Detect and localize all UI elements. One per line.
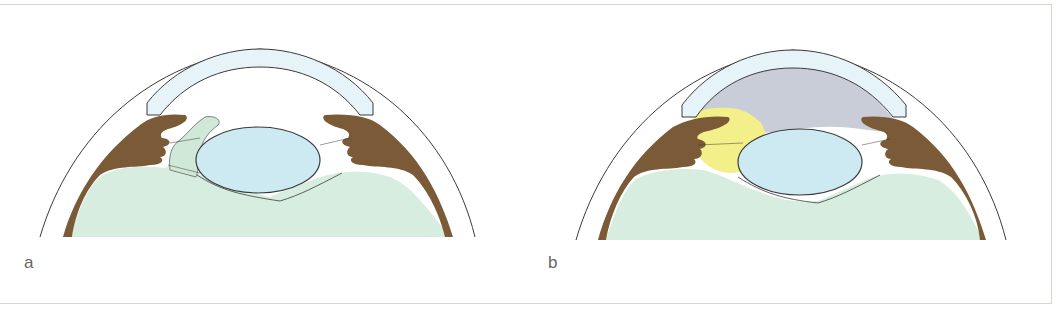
eye-diagram-b	[528, 5, 1056, 305]
panel-label-a: a	[24, 253, 33, 273]
eye-diagram-a	[0, 5, 528, 305]
figure-frame: a b	[0, 4, 1052, 304]
panel-label-b: b	[548, 253, 557, 273]
lens	[196, 127, 320, 193]
panel-b: b	[528, 5, 1056, 305]
cornea	[147, 49, 373, 115]
caption-strip	[0, 306, 1057, 315]
panel-a: a	[0, 5, 528, 305]
lens	[738, 129, 862, 195]
